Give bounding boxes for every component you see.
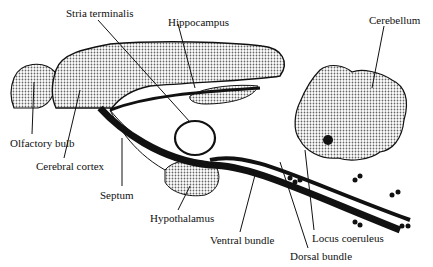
terminal-dots	[288, 174, 411, 231]
label-cerebral-cortex: Cerebral cortex	[36, 160, 104, 172]
label-hippocampus: Hippocampus	[168, 16, 229, 28]
cerebellum-shape	[295, 66, 406, 160]
label-ventral-bundle: Ventral bundle	[210, 234, 274, 246]
label-hypothalamus: Hypothalamus	[150, 212, 214, 224]
label-stria-terminalis: Stria terminalis	[66, 7, 134, 19]
label-dorsal-bundle: Dorsal bundle	[290, 250, 352, 262]
brain-diagram	[0, 0, 433, 267]
label-locus-coeruleus: Locus coeruleus	[312, 232, 384, 244]
label-cerebellum: Cerebellum	[369, 14, 420, 26]
locus-coeruleus-cluster	[323, 135, 333, 145]
label-olfactory-bulb: Olfactory bulb	[10, 137, 74, 149]
label-septum: Septum	[100, 189, 134, 201]
thalamus-circle	[175, 121, 215, 155]
